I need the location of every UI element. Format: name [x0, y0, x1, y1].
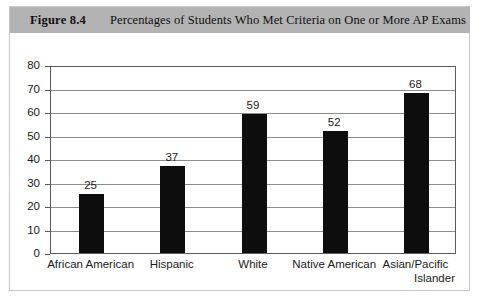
gridline: [51, 90, 455, 91]
y-axis-tick-label: 80: [6, 60, 40, 71]
bar-value-label: 52: [314, 116, 354, 128]
y-axis-tick-label: 30: [6, 178, 40, 189]
bar-value-label: 37: [152, 151, 192, 163]
bar[interactable]: [160, 166, 185, 253]
bar[interactable]: [242, 114, 267, 253]
category-label-line: White: [238, 258, 267, 270]
y-axis-tick-label: 40: [6, 154, 40, 165]
figure-root: Figure 8.4 Percentages of Students Who M…: [0, 0, 485, 305]
y-axis-tick-label: 50: [6, 131, 40, 142]
x-axis-category-label: Native American: [288, 258, 381, 272]
category-label-line: African American: [47, 258, 134, 270]
category-label-line: Asian/Pacific: [382, 258, 448, 270]
figure-number: Figure 8.4: [30, 13, 86, 28]
y-axis-tick: [45, 254, 50, 255]
bar[interactable]: [323, 131, 348, 253]
bar[interactable]: [79, 194, 104, 253]
bar-value-label: 59: [233, 99, 273, 111]
bar-value-label: 25: [71, 179, 111, 191]
bar-value-label: 68: [395, 78, 435, 90]
category-label-line: Hispanic: [150, 258, 194, 270]
y-axis-tick-label: 10: [6, 225, 40, 236]
y-axis-tick-label: 70: [6, 84, 40, 95]
bar[interactable]: [404, 93, 429, 253]
y-axis-tick-label: 60: [6, 107, 40, 118]
y-axis-tick-label: 0: [6, 248, 40, 259]
x-axis-category-label: Hispanic: [125, 258, 218, 272]
figure-caption-text: Percentages of Students Who Met Criteria…: [110, 13, 466, 28]
x-axis-category-label: Asian/PacificIslander: [369, 258, 462, 285]
figure-caption-band: Figure 8.4 Percentages of Students Who M…: [10, 7, 470, 33]
y-axis-tick-label: 20: [6, 201, 40, 212]
category-label-line: Islander: [369, 272, 462, 286]
plot-area: [50, 66, 456, 254]
x-axis-category-label: White: [206, 258, 299, 272]
x-axis-category-label: African American: [44, 258, 137, 272]
category-label-line: Native American: [292, 258, 376, 270]
figure-caption: Figure 8.4 Percentages of Students Who M…: [10, 7, 470, 33]
